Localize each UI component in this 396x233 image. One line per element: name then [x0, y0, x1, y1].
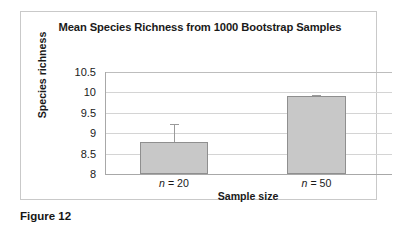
y-axis-title: Species richness: [36, 17, 48, 133]
error-bar-cap-n-20: [170, 124, 179, 125]
error-bar-cap-n-50: [312, 95, 321, 96]
y-tick-label: 10: [51, 86, 96, 99]
plot-area: n = 20 n = 50: [105, 72, 392, 175]
bar-n-50: [287, 96, 346, 174]
gridline: [106, 113, 392, 114]
x-tick-label-n-20: n = 20: [140, 177, 208, 189]
y-axis-tick-labels: 10.5 10 9.5 9 8.5 8: [51, 66, 96, 178]
y-tick-label: 10.5: [51, 66, 96, 79]
error-bar-n-20: [174, 124, 175, 142]
x-axis-title: Sample size: [105, 190, 391, 202]
figure-caption: Figure 12: [20, 210, 71, 222]
gridline: [106, 133, 392, 134]
y-tick-label: 9: [51, 127, 96, 140]
y-tick-label: 8: [51, 168, 96, 181]
y-tick-label: 8.5: [51, 148, 96, 161]
gridline: [106, 92, 392, 93]
gridline: [106, 72, 392, 73]
bar-n-20: [140, 142, 208, 174]
x-tick-value: = 20: [165, 177, 189, 189]
x-tick-value: = 50: [308, 177, 332, 189]
y-tick-label: 9.5: [51, 107, 96, 120]
figure-frame: Mean Species Richness from 1000 Bootstra…: [20, 11, 377, 200]
x-tick-label-n-50: n = 50: [287, 177, 346, 189]
chart-title: Mean Species Richness from 1000 Bootstra…: [43, 20, 357, 34]
